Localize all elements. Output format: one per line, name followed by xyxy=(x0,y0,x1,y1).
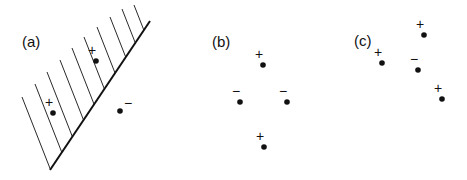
charge-point xyxy=(415,67,421,73)
plus-sign: + xyxy=(45,94,53,110)
charge-point xyxy=(237,99,243,105)
hatch-line xyxy=(134,5,144,30)
boundary-line xyxy=(50,21,150,170)
charge-point xyxy=(117,108,123,114)
hatch-line xyxy=(97,27,115,73)
panel-label: (b) xyxy=(212,33,230,50)
panel-b: (b)+−−+ xyxy=(212,33,290,150)
hatch-line xyxy=(110,17,126,57)
charge-point xyxy=(261,144,267,150)
charge-point xyxy=(50,110,56,116)
charge-point xyxy=(421,32,427,38)
plus-sign: + xyxy=(88,42,96,58)
plus-sign: + xyxy=(416,16,424,32)
hatch-line xyxy=(122,9,135,43)
charge-point xyxy=(260,62,266,68)
charge-point xyxy=(93,58,99,64)
plus-sign: + xyxy=(374,44,382,60)
minus-sign: − xyxy=(232,83,240,99)
minus-sign: − xyxy=(410,51,418,67)
plus-sign: + xyxy=(256,128,264,144)
charge-point xyxy=(439,96,445,102)
diagram-canvas: (a)++− (b)+−−+ (c)++−+ xyxy=(0,0,467,180)
plus-sign: + xyxy=(255,46,263,62)
panel-label: (c) xyxy=(354,32,372,49)
charge-point xyxy=(379,60,385,66)
minus-sign: − xyxy=(279,83,287,99)
charge-point xyxy=(284,99,290,105)
minus-sign: − xyxy=(124,95,132,111)
panel-label: (a) xyxy=(22,33,40,50)
panel-a: (a)++− xyxy=(22,5,150,170)
panel-c: (c)++−+ xyxy=(354,16,445,102)
plus-sign: + xyxy=(434,80,442,96)
